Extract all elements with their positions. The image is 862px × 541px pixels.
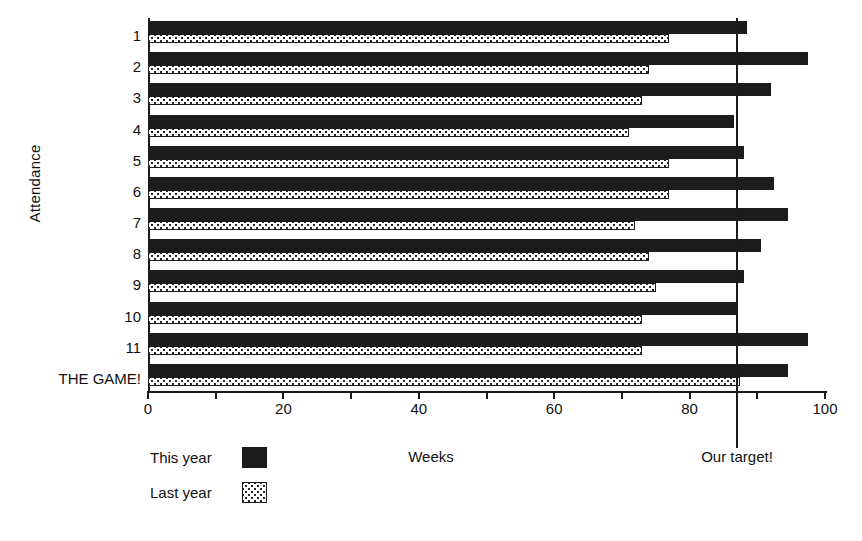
y-axis-tick-label: 11 — [125, 339, 141, 354]
bar-this-year — [148, 21, 747, 34]
bar-last-year — [148, 315, 642, 324]
x-axis-tick — [282, 391, 284, 399]
bar-this-year — [148, 177, 774, 190]
bar-last-year — [148, 190, 669, 199]
x-axis-tick — [689, 391, 691, 399]
y-axis-tick-label: 9 — [133, 277, 141, 292]
bar-last-year — [148, 65, 649, 74]
legend-label-this-year: This year — [150, 449, 242, 466]
chart-row: 3 — [148, 83, 825, 111]
plot-area: 1234567891011THE GAME! — [148, 18, 825, 392]
bar-last-year — [148, 346, 642, 355]
bar-this-year — [148, 333, 808, 346]
x-axis-tick-label: 100 — [812, 400, 837, 417]
chart-row: 10 — [148, 302, 825, 330]
chart-legend: This year Last year — [150, 440, 267, 510]
bar-this-year — [148, 208, 788, 221]
y-axis-tick-label: THE GAME! — [58, 370, 141, 385]
y-axis-tick-label: 1 — [133, 28, 141, 43]
y-axis-tick-label: 3 — [133, 90, 141, 105]
bar-this-year — [148, 239, 761, 252]
legend-swatch-last-year — [242, 482, 267, 503]
bar-last-year — [148, 34, 669, 43]
bar-last-year — [148, 283, 656, 292]
legend-item-this-year: This year — [150, 440, 267, 475]
bar-last-year — [148, 221, 635, 230]
bar-last-year — [148, 128, 629, 137]
y-axis-tick-label: 4 — [133, 121, 141, 136]
x-axis-tick-label: 60 — [546, 400, 563, 417]
x-axis-tick-label: 40 — [410, 400, 427, 417]
chart-row: 1 — [148, 21, 825, 49]
bar-this-year — [148, 146, 744, 159]
bar-this-year — [148, 52, 808, 65]
chart-row: 4 — [148, 115, 825, 143]
y-axis-tick-label: 2 — [133, 59, 141, 74]
bar-this-year — [148, 270, 744, 283]
bar-last-year — [148, 252, 649, 261]
y-axis-tick-label: 10 — [124, 308, 141, 323]
x-axis-tick — [418, 391, 420, 399]
legend-label-last-year: Last year — [150, 484, 242, 501]
x-axis-tick — [215, 391, 217, 399]
x-axis-tick-label: 20 — [275, 400, 292, 417]
y-axis-tick-label: 6 — [133, 183, 141, 198]
chart-row: 5 — [148, 146, 825, 174]
bar-this-year — [148, 364, 788, 377]
y-axis-tick-label: 5 — [133, 152, 141, 167]
bar-last-year — [148, 159, 669, 168]
bar-this-year — [148, 115, 734, 128]
chart-row: 7 — [148, 208, 825, 236]
legend-swatch-this-year — [242, 447, 267, 468]
chart-row: 6 — [148, 177, 825, 205]
bar-last-year — [148, 377, 740, 386]
legend-item-last-year: Last year — [150, 475, 267, 510]
bar-last-year — [148, 96, 642, 105]
chart-row: 9 — [148, 270, 825, 298]
chart-row: THE GAME! — [148, 364, 825, 392]
chart-row: 11 — [148, 333, 825, 361]
target-line — [736, 18, 738, 448]
x-axis-tick — [621, 391, 623, 399]
bar-this-year — [148, 302, 737, 315]
attendance-bar-chart: Attendance 1234567891011THE GAME! 020406… — [0, 0, 862, 541]
y-axis-title: Attendance — [26, 104, 43, 264]
x-axis-tick — [486, 391, 488, 399]
x-axis-title: Weeks — [0, 448, 862, 465]
x-axis-tick-label: 0 — [144, 400, 152, 417]
x-axis-tick-label: 80 — [681, 400, 698, 417]
x-axis-tick — [350, 391, 352, 399]
x-axis-tick — [147, 391, 149, 399]
y-axis-tick-label: 8 — [133, 246, 141, 261]
x-axis-tick — [756, 391, 758, 399]
chart-row: 2 — [148, 52, 825, 80]
x-axis-tick — [553, 391, 555, 399]
bar-this-year — [148, 83, 771, 96]
chart-row: 8 — [148, 239, 825, 267]
y-axis-tick-label: 7 — [133, 215, 141, 230]
x-axis-tick — [824, 391, 826, 399]
